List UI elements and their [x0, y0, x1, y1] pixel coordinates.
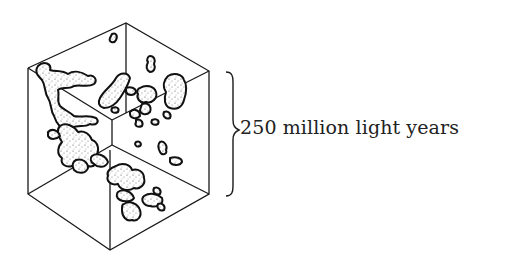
galaxy-cluster-blob	[140, 103, 151, 114]
galaxy-cluster-blob	[110, 33, 117, 42]
scale-label: 250 million light years	[240, 116, 459, 138]
galaxy-cluster-blob	[157, 203, 164, 210]
galaxy-cluster-blob	[111, 107, 118, 113]
galaxy-cluster-blob	[135, 141, 141, 146]
galaxy-cluster-blob	[170, 157, 182, 165]
galaxy-cluster-blob	[164, 74, 186, 109]
galaxy-cluster-blob	[135, 119, 142, 126]
galaxy-cluster-blob	[122, 202, 141, 220]
galaxy-cluster-blob	[153, 187, 160, 194]
galaxy-cluster-blob	[73, 159, 88, 172]
galaxy-cluster-blob	[147, 56, 155, 72]
galaxy-clusters	[36, 33, 186, 220]
galaxy-cluster-blob	[151, 119, 158, 125]
galaxy-cluster-blob	[163, 111, 170, 118]
galaxy-cluster-blob	[159, 142, 167, 155]
galaxy-cluster-blob	[36, 63, 97, 134]
scale-brace	[226, 72, 239, 196]
cosmic-structure-figure: 250 million light years	[0, 0, 505, 263]
galaxy-cluster-blob	[126, 87, 136, 95]
galaxy-cluster-blob	[107, 164, 144, 190]
galaxy-cluster-blob	[130, 110, 140, 118]
galaxy-cluster-blob	[48, 130, 60, 139]
galaxy-cluster-blob	[117, 190, 134, 201]
galaxy-cluster-blob	[137, 86, 156, 102]
